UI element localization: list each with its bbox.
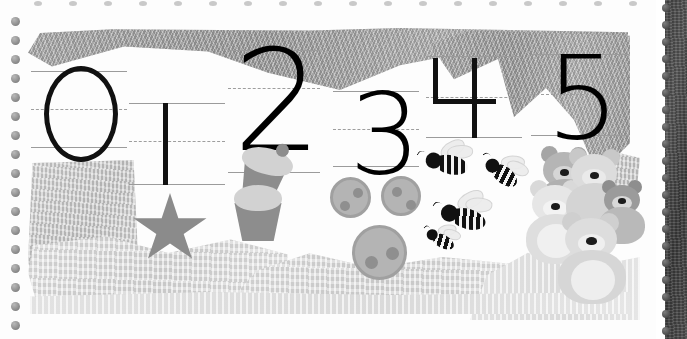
count-object-bee-1 bbox=[417, 143, 473, 187]
numeral-zero bbox=[44, 66, 118, 162]
spiral-hole bbox=[11, 17, 20, 26]
spiral-hole bbox=[11, 226, 20, 235]
count-object-cookie-1 bbox=[330, 177, 371, 218]
spiral-hole-top bbox=[629, 1, 637, 6]
spiral-hole-top bbox=[594, 1, 602, 6]
spine-coil-bead bbox=[662, 208, 670, 216]
cookie-chip bbox=[340, 201, 350, 211]
spiral-hole bbox=[11, 169, 20, 178]
spiral-hole-top bbox=[524, 1, 532, 6]
numeral-four-cross-stroke bbox=[433, 99, 496, 104]
spiral-hole bbox=[11, 188, 20, 197]
numeral-four-stem-stroke bbox=[472, 58, 477, 138]
cookie-chip bbox=[353, 188, 363, 198]
spiral-hole-top bbox=[559, 1, 567, 6]
count-object-cupcake-upright bbox=[228, 183, 290, 241]
spine-coil-bead bbox=[662, 72, 670, 80]
numeral-five: 5 bbox=[546, 40, 620, 156]
spiral-hole bbox=[11, 321, 20, 330]
spiral-hole bbox=[11, 93, 20, 102]
spiral-hole-top bbox=[209, 1, 217, 6]
spiral-hole bbox=[11, 283, 20, 292]
spine-coil-bead bbox=[662, 106, 670, 114]
spine-coil-bead bbox=[662, 21, 670, 29]
cookie-chip bbox=[365, 256, 378, 269]
spiral-hole bbox=[11, 112, 20, 121]
spine-coil-bead bbox=[662, 310, 670, 318]
spine-coil-bead bbox=[662, 293, 670, 301]
spiral-hole-top bbox=[104, 1, 112, 6]
spiral-hole-top bbox=[174, 1, 182, 6]
spiral-hole-top bbox=[419, 1, 427, 6]
spine-coil-bead bbox=[662, 38, 670, 46]
spiral-hole-top bbox=[454, 1, 462, 6]
spiral-hole-top bbox=[349, 1, 357, 6]
spine-coil-bead bbox=[662, 157, 670, 165]
worksheet-page: 0 1 2 3 4 5 bbox=[0, 0, 687, 339]
spiral-hole bbox=[11, 131, 20, 140]
cupcake-frosting bbox=[234, 185, 282, 211]
spiral-hole-top bbox=[34, 1, 42, 6]
spiral-hole bbox=[11, 245, 20, 254]
bear-nose bbox=[551, 203, 560, 210]
spiral-hole-top bbox=[489, 1, 497, 6]
ruled-bottom-1 bbox=[129, 184, 225, 185]
spiral-hole-top bbox=[139, 1, 147, 6]
count-object-cookie-3 bbox=[352, 225, 407, 280]
spiral-hole-top bbox=[384, 1, 392, 6]
bear-nose bbox=[618, 198, 626, 204]
spiral-hole bbox=[11, 264, 20, 273]
spiral-hole-top bbox=[244, 1, 252, 6]
spiral-hole bbox=[11, 150, 20, 159]
spine-coil-bead bbox=[662, 327, 670, 335]
spine-coil-bead bbox=[662, 191, 670, 199]
ruled-top-4 bbox=[426, 56, 522, 57]
spiral-hole-top bbox=[314, 1, 322, 6]
count-object-cookie-2 bbox=[381, 176, 421, 216]
bear-nose bbox=[586, 237, 597, 245]
spiral-hole bbox=[11, 207, 20, 216]
spine-coil-bead bbox=[662, 4, 670, 12]
spine-coil-bead bbox=[662, 89, 670, 97]
count-object-teddy-bear-5 bbox=[555, 212, 633, 304]
numeral-four-left-stroke bbox=[433, 58, 438, 103]
collage-bottom-strip bbox=[30, 292, 630, 314]
ruled-top-1 bbox=[129, 103, 225, 104]
cookie-chip bbox=[406, 200, 416, 210]
spine-gap bbox=[656, 0, 665, 339]
spiral-hole bbox=[11, 302, 20, 311]
spine-coil-bead bbox=[662, 259, 670, 267]
numeral-four bbox=[433, 58, 503, 138]
spiral-hole bbox=[11, 36, 20, 45]
bear-belly bbox=[571, 260, 615, 300]
notebook-spine bbox=[665, 0, 687, 339]
ruled-mid-1 bbox=[129, 141, 225, 142]
numeral-one bbox=[163, 103, 168, 185]
spine-coil-bead bbox=[662, 276, 670, 284]
spine-coil-bead bbox=[662, 174, 670, 182]
spine-coil-bead bbox=[662, 123, 670, 131]
spiral-hole-top bbox=[279, 1, 287, 6]
spiral-hole bbox=[11, 74, 20, 83]
spine-coil-bead bbox=[662, 242, 670, 250]
count-object-bee-4 bbox=[418, 221, 459, 258]
spine-coil-bead bbox=[662, 55, 670, 63]
spine-coil-bead bbox=[662, 225, 670, 233]
cookie-chip bbox=[392, 187, 402, 197]
cookie-chip bbox=[386, 247, 399, 260]
numeral-three: 3 bbox=[349, 78, 421, 191]
bear-nose bbox=[590, 172, 599, 179]
spiral-hole-top bbox=[69, 1, 77, 6]
spine-coil-bead bbox=[662, 140, 670, 148]
spiral-hole bbox=[11, 55, 20, 64]
